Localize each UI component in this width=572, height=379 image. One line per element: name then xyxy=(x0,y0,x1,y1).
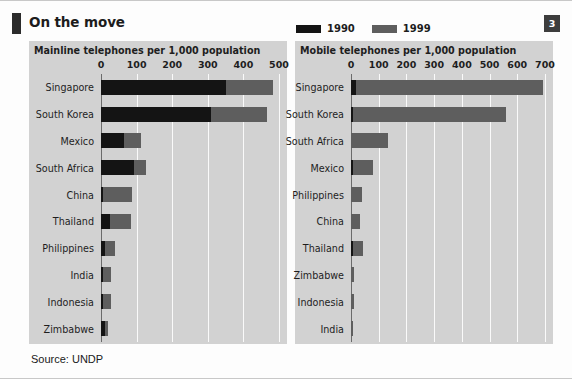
x-tick-label: 100 xyxy=(369,59,389,70)
figure-header: On the move 1990 1999 3 xyxy=(0,1,572,41)
bar-1990 xyxy=(101,214,110,229)
x-tick-label: 300 xyxy=(198,59,218,70)
legend-swatch-1990 xyxy=(296,25,321,33)
plot-area-mobile: SingaporeSouth KoreaSouth AfricaMexicoPh… xyxy=(295,74,553,342)
chart-panel-mobile: Mobile telephones per 1,000 population 0… xyxy=(295,41,553,344)
page-number-badge: 3 xyxy=(544,15,560,32)
x-tick-label: 200 xyxy=(397,59,417,70)
x-tick-label: 700 xyxy=(535,59,555,70)
bar-1999 xyxy=(351,294,354,309)
category-label: China xyxy=(317,216,344,227)
plot-area-mainline: SingaporeSouth KoreaMexicoSouth AfricaCh… xyxy=(29,74,287,342)
bar-row: Indonesia xyxy=(29,288,287,315)
bar-1999 xyxy=(351,267,354,282)
bar-1999 xyxy=(351,80,543,95)
x-tick-label: 0 xyxy=(348,59,355,70)
bar-1990 xyxy=(101,321,105,336)
category-label: Zimbabwe xyxy=(44,323,94,334)
bar-row: India xyxy=(295,315,553,342)
x-tick-label: 500 xyxy=(480,59,500,70)
legend: 1990 1999 xyxy=(296,23,431,34)
category-label: Philippines xyxy=(42,243,94,254)
category-label: Philippines xyxy=(292,189,344,200)
category-label: Indonesia xyxy=(48,296,94,307)
category-label: India xyxy=(70,269,94,280)
legend-label-1990: 1990 xyxy=(327,23,355,34)
x-tick-label: 200 xyxy=(162,59,182,70)
bar-1990 xyxy=(101,133,124,148)
x-axis-mainline: 0100200300400500 xyxy=(29,59,287,73)
bar-1990 xyxy=(101,80,226,95)
source-note: Source: UNDP xyxy=(31,353,103,365)
bar-row: Mexico xyxy=(295,154,553,181)
x-tick-label: 300 xyxy=(424,59,444,70)
category-label: South Africa xyxy=(286,135,344,146)
x-tick-label: 0 xyxy=(98,59,105,70)
bar-row: Singapore xyxy=(29,74,287,101)
category-label: China xyxy=(67,189,94,200)
bar-row: China xyxy=(295,208,553,235)
bar-1999 xyxy=(101,187,132,202)
legend-item-1999: 1999 xyxy=(372,23,431,34)
bar-row: South Africa xyxy=(29,154,287,181)
bar-row: Singapore xyxy=(295,74,553,101)
bar-1990 xyxy=(101,160,134,175)
bar-row: South Korea xyxy=(29,101,287,128)
category-label: Indonesia xyxy=(298,296,344,307)
bar-1990 xyxy=(351,241,353,256)
x-tick-label: 500 xyxy=(269,59,289,70)
title-marker-icon xyxy=(12,13,21,34)
bar-1999 xyxy=(351,107,506,122)
bar-row: Zimbabwe xyxy=(29,315,287,342)
legend-label-1999: 1999 xyxy=(403,23,431,34)
category-label: Thailand xyxy=(53,216,94,227)
bar-1990 xyxy=(101,187,103,202)
bar-1990 xyxy=(101,241,105,256)
chart-subtitle-mobile: Mobile telephones per 1,000 population xyxy=(300,45,516,56)
bar-row: South Africa xyxy=(295,128,553,155)
chart-panel-mainline: Mainline telephones per 1,000 population… xyxy=(29,41,287,344)
bar-1990 xyxy=(351,107,353,122)
bar-row: Indonesia xyxy=(295,288,553,315)
x-tick-label: 400 xyxy=(233,59,253,70)
page-title: On the move xyxy=(29,14,125,30)
category-label: Thailand xyxy=(303,243,344,254)
category-label: Singapore xyxy=(296,82,344,93)
bar-1990 xyxy=(101,294,103,309)
category-label: Mexico xyxy=(311,162,345,173)
chart-subtitle-mainline: Mainline telephones per 1,000 population xyxy=(34,45,260,56)
x-axis-mobile: 0100200300400500600700 xyxy=(295,59,553,73)
bar-1990 xyxy=(351,80,356,95)
category-label: Singapore xyxy=(46,82,94,93)
bar-1990 xyxy=(351,160,353,175)
bar-1999 xyxy=(351,187,362,202)
bar-row: Philippines xyxy=(29,235,287,262)
bar-1990 xyxy=(101,267,103,282)
x-tick-label: 600 xyxy=(507,59,527,70)
bar-1990 xyxy=(101,107,211,122)
category-label: South Africa xyxy=(36,162,94,173)
bar-row: China xyxy=(29,181,287,208)
bar-row: South Korea xyxy=(295,101,553,128)
figure-container: On the move 1990 1999 3 Mainline telepho… xyxy=(0,0,572,379)
bar-1999 xyxy=(351,321,353,336)
category-label: India xyxy=(320,323,344,334)
bar-1999 xyxy=(351,133,388,148)
x-tick-label: 100 xyxy=(127,59,147,70)
category-label: South Korea xyxy=(286,109,344,120)
bar-row: Philippines xyxy=(295,181,553,208)
legend-swatch-1999 xyxy=(372,25,397,33)
category-label: Zimbabwe xyxy=(294,269,344,280)
bar-row: Mexico xyxy=(29,128,287,155)
bar-1999 xyxy=(351,214,360,229)
category-label: South Korea xyxy=(36,109,94,120)
bar-row: Zimbabwe xyxy=(295,262,553,289)
bar-1999 xyxy=(351,241,363,256)
bar-row: Thailand xyxy=(29,208,287,235)
legend-item-1990: 1990 xyxy=(296,23,355,34)
category-label: Mexico xyxy=(61,135,95,146)
bar-1999 xyxy=(351,160,373,175)
bar-row: India xyxy=(29,262,287,289)
bar-row: Thailand xyxy=(295,235,553,262)
x-tick-label: 400 xyxy=(452,59,472,70)
